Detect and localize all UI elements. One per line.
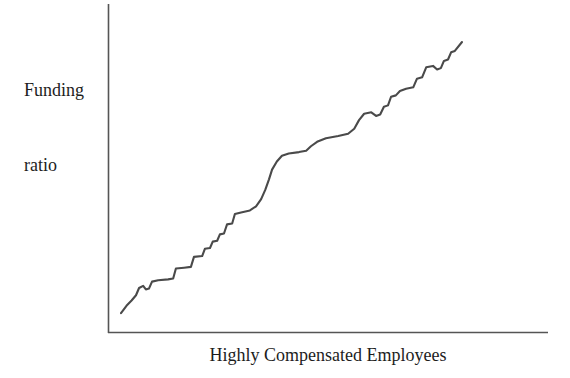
plot-area	[0, 0, 570, 378]
chart-container: Funding ratio Highly Compensated Employe…	[0, 0, 570, 378]
data-series-line	[121, 42, 462, 313]
x-axis-label: Highly Compensated Employees	[108, 344, 548, 366]
